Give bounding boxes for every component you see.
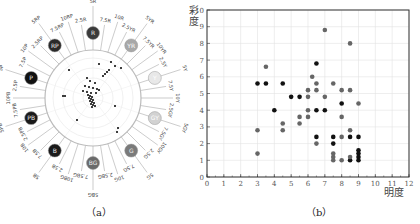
hue-badge-p: P <box>25 71 38 84</box>
x-tick-label: 10 <box>371 180 380 188</box>
hue-badge-b: B <box>48 144 61 157</box>
scatter-point-gray <box>314 81 319 86</box>
hue-point <box>110 61 112 63</box>
scatter-point-dark <box>331 141 336 146</box>
scatter-point-dark <box>314 135 319 140</box>
hue-tick-label: 10PB <box>5 91 11 104</box>
scatter-point-dark <box>323 108 328 113</box>
hue-point <box>117 127 119 129</box>
caption-a: （a） <box>86 204 112 219</box>
hue-point <box>62 95 64 97</box>
scatter-point-gray <box>348 88 353 93</box>
hue-badge-gy: GY <box>148 112 161 125</box>
x-axis-label: 明度 <box>384 186 404 198</box>
scatter-point-gray <box>255 128 260 133</box>
hue-point <box>89 95 91 97</box>
hue-point <box>94 82 96 84</box>
svg-text:G: G <box>129 147 134 154</box>
hue-tick-label: 2.5Y <box>158 56 169 69</box>
caption-b: （b） <box>306 204 332 219</box>
y-tick-label: 4 <box>200 107 205 115</box>
hue-point <box>108 69 110 71</box>
hue-point <box>91 106 93 108</box>
polar-grid <box>45 50 141 146</box>
hue-tick-label: 7.5R <box>99 16 112 24</box>
scatter-point-dark <box>348 135 353 140</box>
hue-point <box>90 103 92 105</box>
svg-text:R: R <box>91 29 95 36</box>
scatter-point-dark <box>356 158 361 163</box>
hue-ring: 5R7.5R10R2.5YR5YR7.5YR10YR2.5Y5Y7.5Y10Y2… <box>0 0 190 198</box>
hue-tick-label: 5PB <box>0 122 5 134</box>
scatter-point-gray <box>306 95 311 100</box>
hue-tick-label: 10R <box>114 13 126 22</box>
hue-tick-label: 7.5Y <box>167 80 175 93</box>
hue-point <box>98 63 100 65</box>
hue-tick-label: 10G <box>113 174 125 183</box>
scatter-point-gray <box>339 158 344 163</box>
y-tick-label: 2 <box>200 140 204 148</box>
y-tick-label: 0 <box>200 174 204 182</box>
svg-text:PB: PB <box>27 114 35 121</box>
scatter-point-dark <box>314 61 319 66</box>
hue-point <box>95 92 97 94</box>
scatter-point-dark <box>314 108 319 113</box>
hue-point <box>106 71 108 73</box>
hue-point <box>84 85 86 87</box>
scatter-point-gray <box>348 155 353 160</box>
svg-text:P: P <box>29 74 33 81</box>
hue-tick-label: 2.5BG <box>97 172 113 180</box>
hue-point <box>116 131 118 133</box>
grid <box>207 10 409 177</box>
hue-tick-label: 2.5YR <box>121 22 137 34</box>
hue-point <box>88 97 90 99</box>
hue-point <box>76 119 78 121</box>
y-tick-label: 5 <box>200 90 204 98</box>
x-tick-label: 9 <box>356 180 360 188</box>
scatter-point-dark <box>289 95 294 100</box>
hue-tick-label: 10P <box>19 42 29 53</box>
scatter-point-gray <box>297 115 302 120</box>
scatter-point-gray <box>280 128 285 133</box>
axes: 0123456789101112012345678910 <box>195 7 413 189</box>
y-tick-label: 3 <box>200 123 204 131</box>
scatter-point-dark <box>255 81 260 86</box>
hue-point <box>87 94 89 96</box>
hue-point <box>89 100 91 102</box>
scatter-point-gray <box>310 75 315 80</box>
hue-point <box>90 98 92 100</box>
hue-point <box>82 90 84 92</box>
hue-tick-label: 7.5BG <box>73 172 89 180</box>
hue-point <box>86 91 88 93</box>
hue-point <box>91 96 93 98</box>
hue-tick-label: 2.5B <box>50 163 63 174</box>
scatter-point-gray <box>255 151 260 156</box>
hue-tick-label: 7.5G <box>122 163 135 174</box>
x-tick-label: 8 <box>339 180 343 188</box>
svg-text:RP: RP <box>51 42 59 49</box>
y-tick-label: 7 <box>200 57 204 65</box>
hue-point <box>91 101 93 103</box>
scatter-point-gray <box>356 101 361 106</box>
hue-point <box>90 92 92 94</box>
scatter-point-gray <box>280 121 285 126</box>
hue-tick-label: 2.5PB <box>16 126 28 142</box>
hue-point <box>114 105 116 107</box>
scatter-point-gray <box>264 64 269 69</box>
hue-tick-label: 7.5RP <box>49 22 65 34</box>
scatter-point-gray <box>339 115 344 120</box>
scatter-point-gray <box>331 158 336 163</box>
scatter-point-dark <box>272 108 277 113</box>
svg-text:B: B <box>53 147 57 154</box>
hue-badge-g: G <box>125 144 138 157</box>
x-tick-label: 1 <box>222 180 226 188</box>
x-tick-label: 7 <box>323 180 327 188</box>
scatter-point-gray <box>348 128 353 133</box>
hue-point <box>86 77 88 79</box>
svg-text:YR: YR <box>126 42 135 49</box>
hue-tick-label: 5YR <box>144 14 156 25</box>
scatter-point-gray <box>306 88 311 93</box>
scatter-point-gray <box>348 41 353 46</box>
scatter-point-gray <box>323 95 328 100</box>
scatter-point-dark <box>339 101 344 106</box>
